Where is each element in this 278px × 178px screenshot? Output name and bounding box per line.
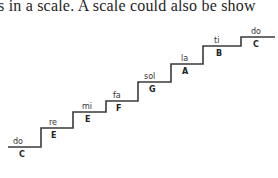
step-note-e: E <box>85 115 90 124</box>
step-syllable-fa: fa <box>113 91 121 100</box>
step-syllable-mi: mi <box>82 102 92 111</box>
step-note-b: B <box>216 49 222 58</box>
step-note-a: A <box>182 67 189 76</box>
step-note-d: E <box>51 131 56 140</box>
step-syllable-la: la <box>181 54 188 63</box>
step-syllable-high-do: do <box>251 27 261 36</box>
step-note-high-c: C <box>253 40 259 49</box>
step-note-c: C <box>19 150 25 159</box>
step-note-g: G <box>149 85 156 94</box>
step-note-f: F <box>116 104 121 113</box>
step-syllable-do: do <box>13 137 23 146</box>
step-syllable-ti: ti <box>214 36 219 45</box>
step-syllable-sol: sol <box>144 72 155 81</box>
staircase-line <box>8 37 275 147</box>
step-syllable-re: re <box>49 118 57 127</box>
scale-staircase-diagram: do C re E mi E fa F sol G la A ti B do C <box>0 0 278 178</box>
